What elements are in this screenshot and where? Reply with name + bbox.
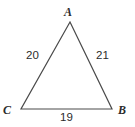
- side-length-label-ab: 21: [96, 50, 109, 62]
- side-length-label-cb: 19: [60, 112, 73, 124]
- vertex-label-b: B: [118, 104, 126, 116]
- vertex-label-a: A: [64, 6, 72, 18]
- triangle-shape: [0, 0, 135, 127]
- vertex-label-c: C: [3, 104, 11, 116]
- triangle-figure: A B C 20 21 19: [0, 0, 135, 127]
- side-length-label-ca: 20: [26, 50, 39, 62]
- triangle-outline: [21, 22, 112, 109]
